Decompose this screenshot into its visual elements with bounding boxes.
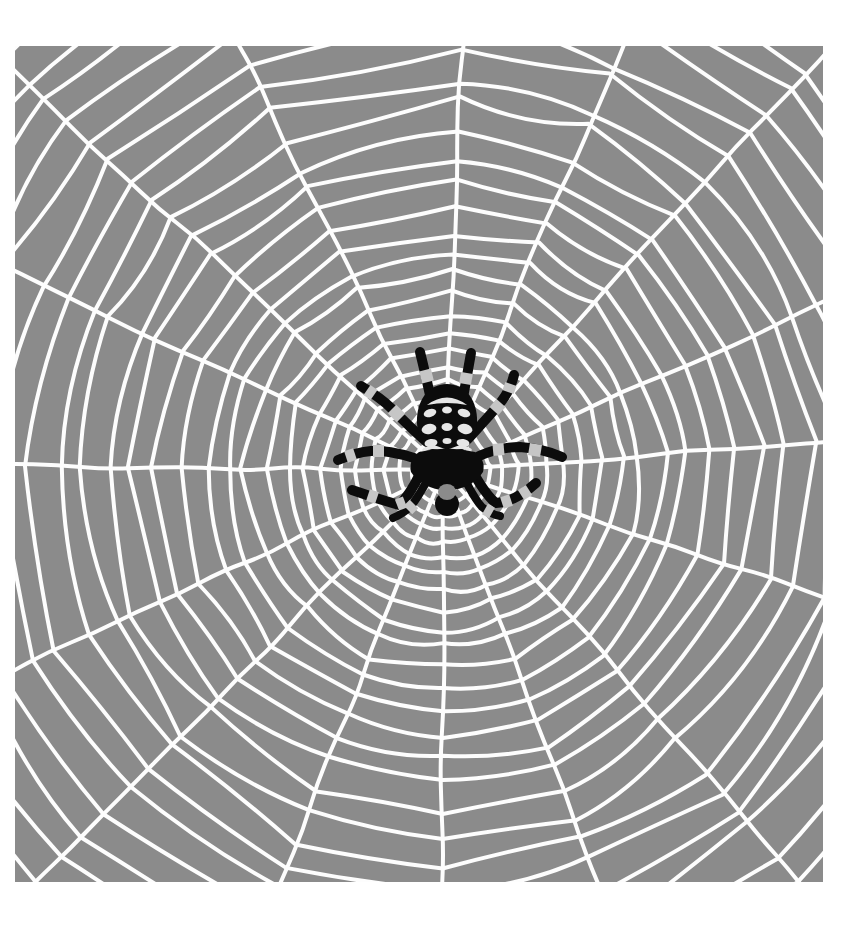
leg-band [465, 373, 467, 384]
web-spoke [15, 472, 442, 882]
leg-band [494, 403, 501, 411]
abdomen-mark [443, 438, 452, 444]
leg-band [367, 390, 374, 395]
leg-mid-right [479, 447, 562, 457]
leg-band [408, 504, 414, 510]
leg-band [368, 495, 377, 498]
leg-band [397, 502, 405, 505]
leg-band [346, 454, 355, 457]
web-spoke [195, 46, 443, 467]
web-spoke [447, 471, 823, 622]
gray-backdrop [15, 46, 823, 882]
abdomen-mark [442, 407, 452, 414]
leg-band [529, 449, 541, 451]
leg-band [521, 490, 529, 495]
chelicerae-notch [438, 484, 456, 500]
web-spoke [441, 473, 445, 882]
leg-band [392, 409, 401, 418]
spiderweb-illustration [15, 46, 823, 882]
leg-band [508, 384, 511, 392]
leg-band [493, 449, 504, 450]
illustration-page: { "colors": { "page_background": "#fffff… [0, 0, 867, 931]
abdomen-mark [442, 423, 453, 431]
leg-band [485, 509, 492, 513]
leg-band [425, 370, 428, 382]
leg-band [502, 500, 511, 503]
